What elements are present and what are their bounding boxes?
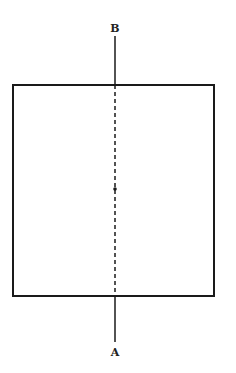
diagram-canvas: B A — [0, 0, 236, 373]
center-point — [113, 187, 117, 191]
label-b: B — [110, 22, 119, 35]
square — [13, 85, 214, 296]
label-a: A — [110, 346, 120, 359]
